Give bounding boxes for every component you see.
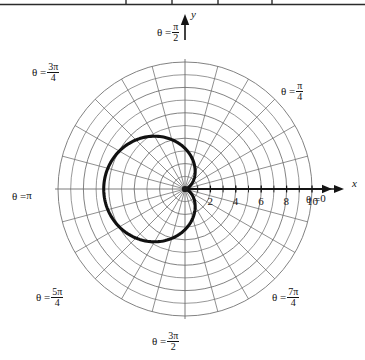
theta-numerator: π — [172, 22, 179, 33]
theta-zero-arrowhead — [334, 185, 344, 193]
grid-ray — [185, 156, 308, 189]
y-axis-arrowhead — [181, 14, 189, 25]
grid-ray — [152, 66, 185, 189]
x-tick-label: 4 — [233, 195, 239, 207]
theta-denominator: 2 — [167, 342, 179, 352]
theta-prefix: θ = — [152, 336, 166, 347]
x-tick-label: 8 — [284, 195, 290, 207]
theta-denominator: 4 — [296, 92, 303, 102]
grid-ray — [185, 189, 295, 253]
theta-numerator: 3π — [167, 331, 179, 342]
theta-fraction: π2 — [172, 22, 179, 43]
theta-7pi-4-label: θ = 7π4 — [272, 287, 299, 308]
theta-value: π — [26, 189, 32, 201]
grid-ray — [185, 126, 295, 190]
theta-prefix: θ = — [157, 27, 171, 38]
theta-fraction: 7π4 — [287, 287, 299, 308]
grid-ray — [122, 189, 186, 299]
theta-denominator: 4 — [47, 73, 59, 83]
theta-pi-2-label: θ = π2 — [157, 22, 179, 43]
theta-numerator: 3π — [47, 62, 59, 73]
grid-ray — [75, 126, 185, 190]
origin-cusp-marker — [182, 186, 188, 192]
theta-denominator: 4 — [287, 298, 299, 308]
theta-prefix: θ = — [32, 67, 46, 78]
theta-prefix: θ = — [36, 292, 50, 303]
theta-5pi-4-label: θ = 5π4 — [36, 287, 63, 308]
theta-prefix: θ = — [12, 191, 26, 202]
theta-numerator: 7π — [287, 287, 299, 298]
grid-ray — [185, 66, 218, 189]
theta-prefix: θ = — [306, 194, 320, 205]
grid-ray — [185, 189, 308, 222]
y-axis-label: y — [191, 8, 196, 20]
theta-3pi-4-label: θ = 3π4 — [32, 62, 59, 83]
theta-pi-4-label: θ = π4 — [281, 81, 303, 102]
polar-graph-figure: yx246810θ = 0θ = π4θ = π2θ = 3π4θ = πθ =… — [0, 0, 365, 360]
theta-fraction: 5π4 — [51, 287, 63, 308]
grid-ray — [62, 156, 185, 189]
x-tick-label: 2 — [207, 195, 213, 207]
theta-fraction: 3π4 — [47, 62, 59, 83]
theta-prefix: θ = — [281, 86, 295, 97]
theta-pi-label: θ = π — [12, 190, 32, 202]
theta-value: 0 — [320, 192, 326, 204]
theta-denominator: 4 — [51, 298, 63, 308]
theta-fraction: π4 — [296, 81, 303, 102]
theta-0-label: θ = 0 — [306, 193, 326, 205]
x-axis-label: x — [352, 177, 357, 189]
grid-ray — [75, 189, 185, 253]
grid-ray — [62, 189, 185, 222]
theta-fraction: 3π2 — [167, 331, 179, 352]
theta-3pi-2-label: θ = 3π2 — [152, 331, 179, 352]
theta-numerator: π — [296, 81, 303, 92]
x-tick-label: 6 — [258, 195, 264, 207]
theta-denominator: 2 — [172, 33, 179, 43]
grid-ray — [152, 189, 185, 312]
grid-ray — [122, 79, 186, 189]
theta-prefix: θ = — [272, 292, 286, 303]
top-rule — [0, 0, 365, 5]
theta-numerator: 5π — [51, 287, 63, 298]
grid-ray — [185, 189, 218, 312]
